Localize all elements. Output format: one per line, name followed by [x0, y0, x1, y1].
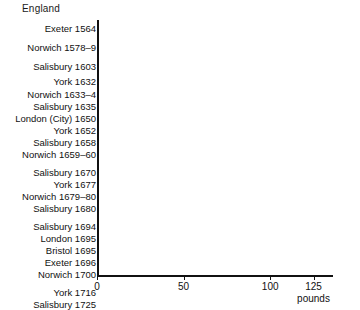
bar: [97, 23, 158, 32]
category-label: Exeter 1696: [45, 258, 96, 267]
bar: [97, 89, 135, 98]
bar: [97, 61, 156, 70]
category-label: Salisbury 1694: [33, 222, 96, 231]
x-axis-tick-label: 125: [305, 281, 322, 292]
category-label: Exeter 1564: [45, 24, 96, 33]
x-axis-line: [97, 275, 333, 277]
category-label: Norwich 1633–4: [27, 90, 96, 99]
plot-area: [97, 20, 333, 275]
category-label: York 1716: [54, 288, 96, 297]
bar: [97, 191, 251, 200]
category-label: Norwich 1679–80: [22, 192, 96, 201]
chart-title: England: [22, 3, 60, 15]
bar: [97, 42, 152, 51]
category-label: Salisbury 1635: [33, 102, 96, 111]
bar: [97, 233, 242, 242]
bar: [97, 287, 223, 296]
category-label: York 1652: [54, 126, 96, 135]
category-label: Salisbury 1725: [33, 300, 96, 309]
category-label: Norwich 1578–9: [27, 43, 96, 52]
bar: [97, 299, 268, 308]
bar: [97, 76, 144, 85]
bar: [97, 245, 308, 254]
category-label: Bristol 1695: [46, 246, 96, 255]
category-label: York 1632: [54, 77, 96, 86]
category-label: York 1677: [54, 180, 96, 189]
bar: [97, 179, 194, 188]
category-label: Norwich 1659–60: [22, 150, 96, 159]
bar: [97, 149, 203, 158]
category-label: Norwich 1700: [38, 270, 96, 279]
category-label: Salisbury 1670: [33, 168, 96, 177]
bar: [97, 257, 305, 266]
x-axis-tick-label: 0: [94, 281, 100, 292]
x-axis-unit-label: pounds: [297, 293, 330, 304]
x-axis-tick: [314, 275, 315, 280]
bar: [97, 113, 249, 122]
x-axis-tick: [184, 275, 185, 280]
category-label: Salisbury 1603: [33, 62, 96, 71]
bar: [97, 221, 222, 230]
x-axis-tick: [97, 275, 98, 280]
x-axis-tick: [270, 275, 271, 280]
bar: [97, 125, 161, 134]
bar: [97, 167, 222, 176]
category-label: Salisbury 1680: [33, 204, 96, 213]
category-label: London 1695: [41, 234, 96, 243]
bar: [97, 269, 251, 278]
x-axis-tick-label: 100: [262, 281, 279, 292]
x-axis-tick-label: 50: [178, 281, 189, 292]
category-label: London (City) 1650: [15, 114, 96, 123]
bar: [97, 137, 189, 146]
bar: [97, 101, 171, 110]
category-label: Salisbury 1658: [33, 138, 96, 147]
bar: [97, 203, 213, 212]
